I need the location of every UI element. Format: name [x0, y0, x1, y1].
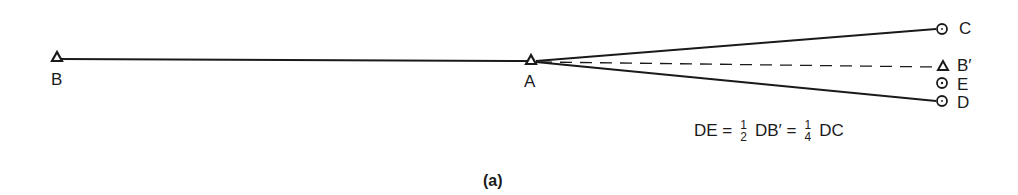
equation-mid: DB′ = [755, 121, 796, 141]
figure-caption: (a) [483, 172, 503, 190]
label-b: B [51, 71, 62, 88]
fraction-denominator: 4 [804, 131, 811, 143]
label-d: D [957, 94, 969, 111]
ratio-equation: DE = 1 2 DB′ = 1 4 DC [694, 119, 844, 143]
line-a-bprime-dashed [540, 62, 936, 67]
equation-lhs: DE = [694, 121, 732, 141]
fraction-one-quarter: 1 4 [804, 119, 811, 143]
label-c: C [959, 20, 971, 37]
equation-rhs: DC [819, 121, 844, 141]
line-b-a [60, 59, 528, 61]
fraction-denominator: 2 [740, 131, 747, 143]
diagram-canvas [0, 0, 1018, 195]
label-a: A [524, 73, 535, 90]
label-e: E [957, 76, 968, 93]
triangle-station-icon-b [52, 52, 62, 61]
fraction-one-half: 1 2 [740, 119, 747, 143]
label-bprime: B′ [957, 57, 972, 74]
triangle-station-icon-a [526, 55, 536, 64]
line-a-d [536, 62, 936, 101]
line-a-c [536, 29, 936, 61]
triangle-station-icon-bprime [938, 61, 948, 70]
